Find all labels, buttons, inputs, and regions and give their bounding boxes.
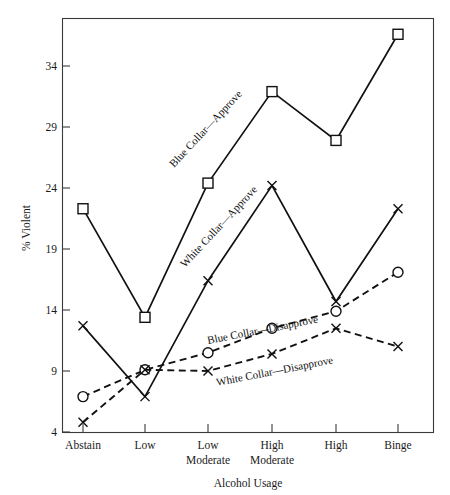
y-tick-label: 4: [51, 426, 57, 438]
data-point-circle-marker: [331, 306, 341, 316]
x-axis: AbstainLowLowModerateHighModerateHighBin…: [65, 424, 412, 466]
data-point-cross-marker: [332, 297, 341, 306]
data-point-cross-marker: [79, 321, 88, 330]
x-axis-title: Alcohol Usage: [214, 477, 283, 490]
data-point-square-marker: [331, 135, 341, 145]
series-line: [83, 34, 398, 317]
y-tick-label: 24: [46, 182, 58, 194]
violence-vs-alcohol-line-chart: 491419242934 AbstainLowLowModerateHighMo…: [0, 0, 450, 495]
data-point-square-marker: [140, 312, 150, 322]
y-axis: 491419242934: [46, 60, 71, 438]
data-point-circle-marker: [393, 267, 403, 277]
series-layer: [78, 29, 403, 426]
data-point-cross-marker: [204, 276, 213, 285]
data-point-cross-marker: [394, 204, 403, 213]
data-point-square-marker: [393, 29, 403, 39]
y-tick-label: 34: [46, 60, 58, 72]
series-1: [78, 29, 403, 322]
data-point-cross-marker: [394, 342, 403, 351]
y-tick-label: 29: [46, 121, 58, 133]
data-point-circle-marker: [203, 348, 213, 358]
data-point-square-marker: [267, 87, 277, 97]
series-label-2: White Collar—Approve: [178, 183, 260, 269]
x-tick-label: High: [325, 439, 348, 452]
x-tick-label-line2: Moderate: [250, 454, 294, 466]
y-tick-label: 19: [46, 243, 58, 255]
chart-container: 491419242934 AbstainLowLowModerateHighMo…: [0, 0, 450, 495]
y-tick-label: 14: [46, 304, 58, 316]
x-tick-label: High: [261, 439, 284, 452]
x-tick-label: Abstain: [65, 439, 101, 451]
data-point-cross-marker: [141, 392, 150, 401]
x-tick-label: Binge: [384, 439, 411, 452]
data-point-cross-marker: [268, 181, 277, 190]
data-point-circle-marker: [78, 392, 88, 402]
x-tick-label-line2: Moderate: [186, 454, 230, 466]
y-tick-label: 9: [51, 365, 57, 377]
series-2: [79, 181, 403, 401]
data-point-square-marker: [203, 178, 213, 188]
x-tick-label: Low: [197, 439, 219, 451]
series-label-4: White Collar—Disapprove: [215, 353, 334, 387]
data-point-square-marker: [78, 204, 88, 214]
series-annotations: Blue Collar—ApproveWhite Collar—ApproveB…: [167, 88, 334, 388]
series-label-1: Blue Collar—Approve: [167, 88, 244, 170]
y-axis-title: % Violent: [20, 204, 32, 251]
x-tick-label: Low: [134, 439, 156, 451]
